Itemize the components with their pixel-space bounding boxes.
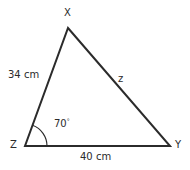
degree-symbol-icon: ° [67,117,70,124]
triangle-figure [0,0,190,170]
vertex-label-y: Y [175,140,181,150]
angle-label-z: 70° [54,118,70,129]
triangle-outline [25,28,170,146]
geometry-diagram: X Y Z 34 cm z 40 cm 70° [0,0,190,170]
angle-arc-z [33,125,48,146]
side-label-zx: 34 cm [8,70,39,80]
side-label-zy: 40 cm [80,152,111,162]
side-label-xy: z [118,74,123,84]
angle-value-z: 70 [54,118,67,129]
vertex-label-x: X [64,8,71,18]
vertex-label-z: Z [10,140,17,150]
